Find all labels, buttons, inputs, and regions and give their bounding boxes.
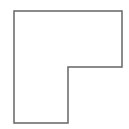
l-shape-diagram xyxy=(0,0,129,129)
